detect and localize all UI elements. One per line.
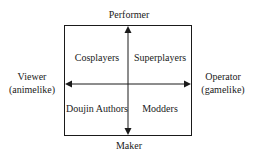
axis-label-left-1: Viewer (4, 71, 60, 83)
axis-label-left-2: (animelike) (4, 84, 60, 96)
axis-label-right-1: Operator (196, 71, 250, 83)
axis-label-bottom: Maker (114, 140, 144, 152)
axis-label-top: Performer (108, 9, 150, 21)
arrow-left-icon (65, 81, 72, 88)
quadrant-label-bottom-right: Modders (130, 103, 190, 115)
quadrant-label-top-right: Superplayers (130, 52, 190, 64)
arrow-up-icon (125, 26, 132, 33)
quadrant-label-bottom-left: Doujin Authors (66, 103, 128, 115)
axis-label-right-2: (gamelike) (196, 84, 250, 96)
arrow-right-icon (184, 81, 191, 88)
quadrant-label-top-left: Cosplayers (68, 52, 126, 64)
arrow-down-icon (125, 128, 132, 135)
